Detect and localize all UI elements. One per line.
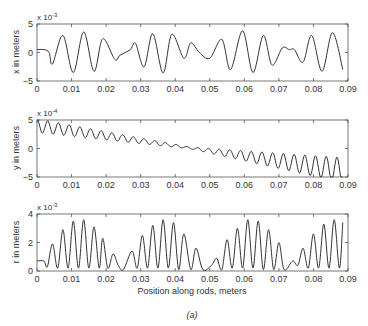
multiplier-y: x 10-4 [37,108,58,118]
svg-text:0: 0 [34,84,39,94]
svg-text:0: 0 [28,48,33,58]
svg-text:0.07: 0.07 [270,180,288,190]
x-axis-label: Position along rods, meters [137,286,247,296]
svg-text:0.06: 0.06 [236,180,254,190]
panel-x: 00.010.020.030.040.050.060.070.080.0950−… [11,12,357,94]
svg-text:0.01: 0.01 [63,180,81,190]
svg-text:4: 4 [28,209,33,219]
svg-text:0.03: 0.03 [132,274,150,284]
svg-text:0.03: 0.03 [132,84,150,94]
y-axis-label-r: r in meters [11,220,21,263]
svg-text:0.04: 0.04 [166,84,184,94]
figure: 00.010.020.030.040.050.060.070.080.0950−… [0,0,368,326]
svg-text:0.09: 0.09 [339,84,357,94]
plot-frame-x [37,24,348,81]
y-axis-label-y: y in meters [11,125,21,170]
svg-text:0.01: 0.01 [63,84,81,94]
multiplier-r: x 10-3 [37,202,58,212]
panel-y: 00.010.020.030.040.050.060.070.080.0950−… [11,108,357,190]
svg-text:0.09: 0.09 [339,274,357,284]
svg-text:0.02: 0.02 [97,180,115,190]
svg-text:0.04: 0.04 [166,180,184,190]
svg-text:0: 0 [28,266,33,276]
svg-text:0.08: 0.08 [305,84,323,94]
svg-text:0.02: 0.02 [97,274,115,284]
multiplier-x: x 10-3 [37,12,58,22]
axis-ticks-y: 00.010.020.030.040.050.060.070.080.0950−… [23,115,357,190]
svg-text:0.06: 0.06 [236,274,254,284]
svg-text:0.03: 0.03 [132,180,150,190]
svg-text:0.06: 0.06 [236,84,254,94]
svg-text:0: 0 [34,180,39,190]
svg-text:0.01: 0.01 [63,274,81,284]
svg-text:2: 2 [28,238,33,248]
svg-text:5: 5 [28,19,33,29]
svg-text:0.02: 0.02 [97,84,115,94]
y-axis-label-x: x in meters [11,29,21,74]
svg-text:0.08: 0.08 [305,274,323,284]
svg-text:0.05: 0.05 [201,84,219,94]
svg-text:0.04: 0.04 [166,274,184,284]
axis-ticks-r: 00.010.020.030.040.050.060.070.080.09420 [28,209,357,284]
svg-text:−5: −5 [23,172,33,182]
svg-text:0.07: 0.07 [270,274,288,284]
svg-text:0.05: 0.05 [201,180,219,190]
svg-text:0: 0 [34,274,39,284]
svg-text:−5: −5 [23,76,33,86]
axis-ticks-x: 00.010.020.030.040.050.060.070.080.0950−… [23,19,357,94]
figure-caption: (a) [187,310,198,320]
svg-text:0.07: 0.07 [270,84,288,94]
line-series-y [37,120,343,177]
svg-text:0.05: 0.05 [201,274,219,284]
line-series-x [37,31,343,73]
svg-text:0: 0 [28,144,33,154]
svg-text:0.08: 0.08 [305,180,323,190]
svg-text:5: 5 [28,115,33,125]
line-series-r [37,220,343,271]
svg-text:0.09: 0.09 [339,180,357,190]
panel-r: 00.010.020.030.040.050.060.070.080.09420… [11,202,357,284]
